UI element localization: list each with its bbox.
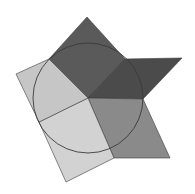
geometric-figure — [0, 0, 195, 194]
